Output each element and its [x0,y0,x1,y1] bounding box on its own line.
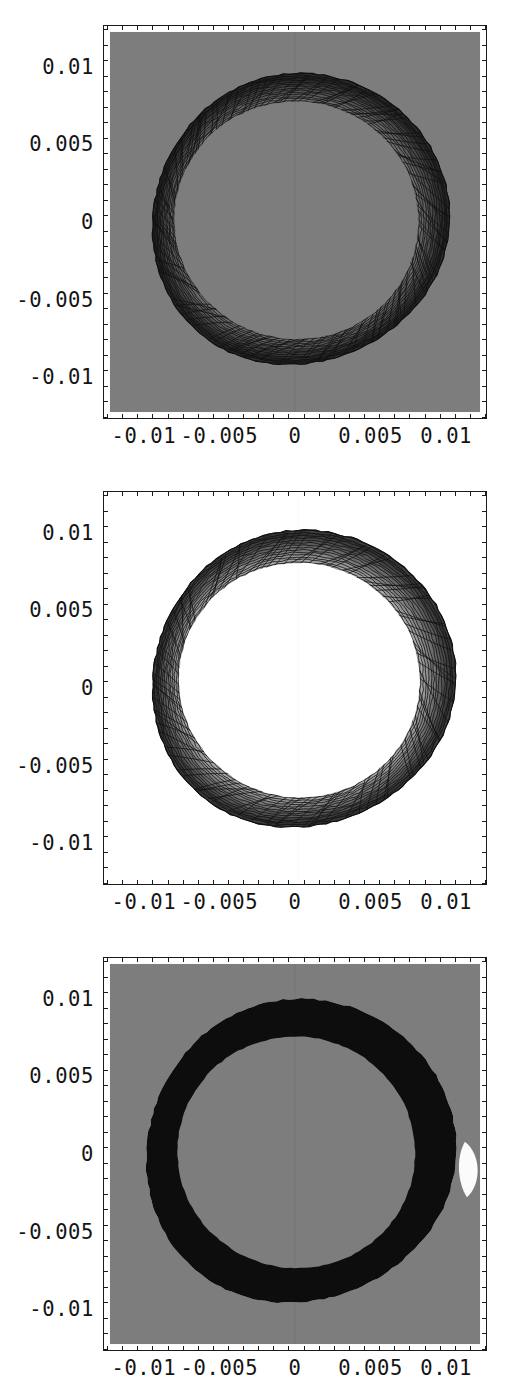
y-axis-tick-label: 0 [0,1144,94,1165]
y-axis-tick-label: 0.005 [0,1066,94,1087]
annulus-inner-region [179,563,420,798]
y-axis-tick-label: 0 [0,212,94,233]
x-axis-tick-label: 0.01 [420,1358,472,1379]
plot-frame [103,957,487,1351]
x-axis-tick-label: 0.005 [338,426,403,447]
contour-panel-bottom: 0.010.0050-0.005-0.01-0.01-0.00500.0050.… [0,932,513,1398]
y-axis-tick-label: -0.01 [0,1299,94,1320]
contour-plot-svg [104,26,486,418]
plot-canvas [104,958,486,1350]
x-axis-tick-label: -0.01 [111,892,176,913]
plot-canvas [104,26,486,418]
x-axis-tick-label: 0.01 [420,426,472,447]
plot-frame [103,25,487,419]
x-axis-tick-label: -0.005 [181,1358,259,1379]
y-axis-tick-label: 0 [0,678,94,699]
x-axis-tick-label: 0.005 [338,1358,403,1379]
x-axis-tick-label: -0.01 [111,426,176,447]
plot-canvas [104,492,486,884]
x-axis-tick-label: -0.005 [181,892,259,913]
panel-inner: 0.010.0050-0.005-0.01-0.01-0.00500.0050.… [0,0,513,466]
annulus-inner-region [174,102,418,340]
contour-panel-middle: 0.010.0050-0.005-0.01-0.01-0.00500.0050.… [0,466,513,932]
x-axis-tick-label: 0 [289,892,302,913]
x-axis-tick-label: -0.005 [181,426,259,447]
contour-panel-top: 0.010.0050-0.005-0.01-0.01-0.00500.0050.… [0,0,513,466]
y-axis-tick-label: 0.01 [0,523,94,544]
y-axis-tick-label: -0.01 [0,367,94,388]
y-axis-tick-label: -0.01 [0,833,94,854]
y-axis-tick-label: -0.005 [0,1221,94,1242]
plot-frame [103,491,487,885]
y-axis-tick-label: 0.005 [0,134,94,155]
y-axis-tick-label: 0.005 [0,600,94,621]
y-axis-tick-label: 0.01 [0,57,94,78]
contour-plot-svg [104,492,486,884]
y-axis-tick-label: -0.005 [0,755,94,776]
x-axis-tick-label: 0 [289,1358,302,1379]
x-axis-tick-label: 0 [289,426,302,447]
panel-inner: 0.010.0050-0.005-0.01-0.01-0.00500.0050.… [0,466,513,932]
x-axis-tick-label: 0.005 [338,892,403,913]
y-axis-tick-label: -0.005 [0,289,94,310]
panel-inner: 0.010.0050-0.005-0.01-0.01-0.00500.0050.… [0,932,513,1398]
annulus-inner-region [177,1037,415,1269]
x-axis-tick-label: 0.01 [420,892,472,913]
x-axis-tick-label: -0.01 [111,1358,176,1379]
contour-plot-svg [104,958,486,1350]
y-axis-tick-label: 0.01 [0,989,94,1010]
